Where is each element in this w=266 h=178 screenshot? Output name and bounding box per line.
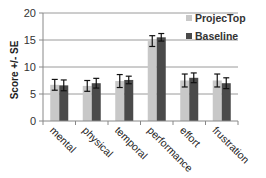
- bars: [50, 37, 231, 121]
- x-tick-label: mental: [48, 124, 79, 155]
- y-tick-label: 10: [24, 61, 36, 73]
- legend-label: Baseline: [195, 30, 238, 42]
- y-axis-label: Score +/- SE: [9, 40, 20, 99]
- x-tick-label: physical: [80, 124, 115, 159]
- legend-swatch: [186, 15, 192, 21]
- y-tick-label: 15: [24, 34, 36, 46]
- y-axis-ticks: 05101520: [24, 7, 43, 127]
- bar-projectop-performance: [148, 41, 157, 121]
- bar-chart: 05101520 mentalphysicaltemporalperforman…: [0, 0, 266, 178]
- error-bars: [52, 34, 230, 92]
- legend: ProjecTopBaseline: [186, 12, 246, 42]
- y-tick-label: 5: [30, 88, 36, 100]
- bar-baseline-effort: [189, 78, 198, 121]
- x-axis-labels: mentalphysicaltemporalperformanceeffortf…: [48, 124, 252, 174]
- x-tick-label: effort: [178, 124, 203, 149]
- x-tick-label: temporal: [113, 124, 150, 161]
- bar-baseline-temporal: [124, 80, 133, 121]
- y-tick-label: 0: [30, 115, 36, 127]
- legend-swatch: [186, 33, 192, 39]
- x-axis: [43, 121, 238, 125]
- legend-label: ProjecTop: [195, 12, 246, 24]
- bar-baseline-performance: [157, 37, 166, 121]
- y-tick-label: 20: [24, 7, 36, 19]
- x-tick-label: frustration: [210, 124, 252, 166]
- bar-baseline-physical: [92, 83, 101, 121]
